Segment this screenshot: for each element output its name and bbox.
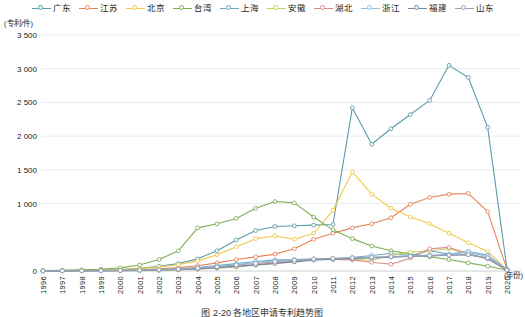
series-line [43,65,507,270]
data-point [254,262,258,266]
x-axis-tick-1997: 1997 [58,276,67,294]
data-point [80,269,84,273]
x-axis-tick-2002: 2002 [155,276,164,294]
data-point [292,201,296,205]
data-point [292,224,296,228]
y-axis-tick-2500: 2 500 [17,98,37,107]
data-point [234,217,238,221]
legend-marker-icon [220,4,239,13]
x-axis-tick-2009: 2009 [290,276,299,294]
data-point [389,255,393,259]
data-point [273,252,277,256]
data-point [447,253,451,257]
y-axis-tick-1500: 1 500 [17,165,37,174]
legend-item-福建[interactable]: 福建 [408,4,447,13]
data-point [215,222,219,226]
data-point [447,192,451,196]
legend-marker-icon [32,4,51,13]
y-axis-tick-1000: 1 000 [17,199,37,208]
data-point [215,253,219,257]
x-axis-tick-2014: 2014 [387,276,396,294]
data-point [41,269,45,273]
x-axis-tick-2016: 2016 [425,276,434,294]
data-point [273,200,277,204]
legend-item-上海[interactable]: 上海 [220,4,259,13]
data-point [138,268,142,272]
data-point [312,237,316,241]
legend-item-湖北[interactable]: 湖北 [314,4,353,13]
y-axis-tick-2000: 2 000 [17,132,37,141]
data-point [312,223,316,227]
legend-item-北京[interactable]: 北京 [126,4,165,13]
x-axis-tick-2004: 2004 [193,276,202,294]
chart-canvas [41,26,521,274]
y-axis-tick-3000: 3 000 [17,64,37,73]
x-axis-tick-2003: 2003 [174,276,183,294]
data-point [312,215,316,219]
figure-caption: 图 2-20 各地区申请专利趋势图 [0,306,525,317]
data-point [254,229,258,233]
data-point [234,263,238,267]
data-point [331,223,335,227]
grid-lines [41,35,521,271]
data-point [466,253,470,257]
data-point [408,215,412,219]
x-axis-tick-2008: 2008 [271,276,280,294]
legend-marker-icon [267,4,286,13]
data-point [370,255,374,259]
x-axis-tick-2010: 2010 [309,276,318,294]
x-axis-tick-2006: 2006 [232,276,241,294]
data-point [408,202,412,206]
data-point [176,249,180,253]
chart-legend: 广东江苏北京台湾上海安徽湖北浙江福建山东 [0,0,525,16]
legend-item-label: 福建 [429,4,447,13]
data-point [408,250,412,254]
legend-item-台湾[interactable]: 台湾 [173,4,212,13]
x-axis-tick-2013: 2013 [367,276,376,294]
data-point [331,228,335,232]
data-point [428,99,432,103]
x-axis-tick-2007: 2007 [251,276,260,294]
data-point [408,254,412,258]
data-point [176,263,180,267]
data-point [215,249,219,253]
data-point [370,142,374,146]
data-point [428,247,432,251]
data-point [331,208,335,212]
data-point [292,258,296,262]
data-point [60,269,64,273]
x-axis-tick-2017: 2017 [445,276,454,294]
data-point [196,226,200,230]
data-point [486,256,490,260]
legend-item-山东[interactable]: 山东 [455,4,494,13]
data-point [486,250,490,254]
legend-item-label: 安徽 [288,4,306,13]
legend-item-label: 浙江 [382,4,400,13]
data-point [389,216,393,220]
legend-item-安徽[interactable]: 安徽 [267,4,306,13]
legend-item-广东[interactable]: 广东 [32,4,71,13]
data-point [370,192,374,196]
data-point [234,245,238,249]
data-point [350,170,354,174]
legend-item-江苏[interactable]: 江苏 [79,4,118,13]
data-point [428,254,432,258]
data-point [99,269,103,273]
data-point [447,258,451,262]
data-point [138,263,142,267]
legend-item-浙江[interactable]: 浙江 [361,4,400,13]
legend-item-label: 广东 [53,4,71,13]
legend-marker-icon [455,4,474,13]
data-point [331,256,335,260]
y-axis-tick-0: 0 [33,267,37,276]
data-point [389,127,393,131]
data-point [350,106,354,110]
data-point [312,231,316,235]
legend-marker-icon [361,4,380,13]
legend-marker-icon [79,4,98,13]
series-广东[interactable] [41,63,509,272]
legend-item-label: 山东 [476,4,494,13]
data-point [389,262,393,266]
series-北京[interactable] [41,170,509,273]
data-point [447,231,451,235]
